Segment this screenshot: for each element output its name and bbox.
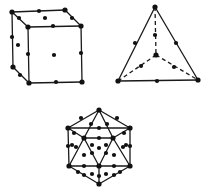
- atom-dot: [152, 4, 157, 9]
- atom-dot: [79, 51, 83, 55]
- atom-dot: [139, 64, 143, 68]
- atom-dot: [172, 65, 176, 69]
- crystal-structures-diagram: [0, 0, 209, 193]
- atom-dot: [18, 73, 22, 77]
- atom-dot: [105, 122, 109, 126]
- edge-line: [113, 138, 130, 166]
- atom-dot: [195, 77, 200, 82]
- hidden-edge-line: [156, 55, 198, 80]
- atom-dot: [66, 144, 70, 148]
- atom-dot: [52, 53, 56, 57]
- atom-dot: [74, 145, 78, 149]
- atom-dot: [65, 125, 70, 130]
- atom-dot: [97, 136, 101, 140]
- atom-dot: [97, 126, 101, 130]
- atom-dot: [112, 153, 116, 157]
- atom-dot: [54, 80, 58, 84]
- atom-dot: [82, 153, 86, 157]
- atom-dot: [127, 125, 132, 130]
- atom-dot: [97, 146, 101, 150]
- hidden-edge-line: [118, 55, 156, 81]
- hidden-edge-line: [155, 7, 156, 55]
- atom-dot: [82, 164, 86, 168]
- atom-dot: [112, 164, 116, 168]
- atom-dot: [90, 172, 94, 176]
- edge-line: [113, 128, 130, 138]
- atom-dot: [97, 174, 101, 178]
- atom-dot: [155, 79, 159, 83]
- atom-dot: [76, 170, 80, 174]
- atom-dot: [70, 16, 74, 20]
- atom-dot: [153, 33, 157, 37]
- atom-dot: [62, 7, 67, 12]
- atom-dot: [78, 23, 83, 28]
- atom-dot: [25, 24, 30, 29]
- atom-dot: [104, 151, 108, 155]
- atom-dot: [79, 79, 84, 84]
- atom-dot: [104, 143, 108, 147]
- atom-dot: [96, 163, 101, 168]
- atom-dot: [118, 170, 122, 174]
- atom-dot: [124, 143, 128, 147]
- atom-dot: [43, 16, 47, 20]
- tetrahedron-diagram: [115, 4, 200, 83]
- atom-dot: [37, 9, 41, 13]
- edge-line: [12, 12, 13, 67]
- atom-dot: [26, 52, 30, 56]
- atom-dot: [10, 64, 15, 69]
- atom-dot: [110, 135, 115, 140]
- edge-line: [69, 138, 84, 166]
- atom-dot: [90, 151, 94, 155]
- atom-dot: [17, 16, 21, 20]
- atom-dot: [112, 173, 116, 177]
- atom-dot: [104, 172, 108, 176]
- atom-dot: [10, 35, 14, 39]
- atom-dot: [16, 43, 20, 47]
- atom-dot: [115, 78, 120, 83]
- atom-dot: [70, 143, 74, 147]
- atom-dot: [90, 143, 94, 147]
- atom-dot: [81, 135, 86, 140]
- atom-dot: [96, 181, 101, 186]
- atom-dot: [133, 41, 137, 45]
- atom-dot: [122, 131, 126, 135]
- atom-dot: [66, 163, 71, 168]
- atom-dot: [9, 9, 14, 14]
- atom-dot: [51, 24, 55, 28]
- face-centered-cube-diagram: [9, 7, 84, 85]
- atom-dot: [26, 80, 31, 85]
- atom-dot: [127, 163, 132, 168]
- icosahedron-diagram: [65, 107, 132, 186]
- atom-dot: [128, 144, 132, 148]
- atom-dot: [89, 122, 93, 126]
- atom-dot: [153, 52, 158, 57]
- atom-dot: [72, 131, 76, 135]
- atom-dot: [96, 107, 101, 112]
- atom-dot: [79, 116, 83, 120]
- atom-dot: [174, 41, 178, 45]
- atom-dot: [82, 173, 86, 177]
- atom-dot: [115, 116, 119, 120]
